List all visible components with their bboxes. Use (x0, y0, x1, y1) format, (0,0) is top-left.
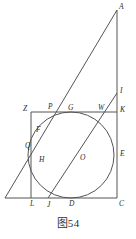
vertex-label-I: I (119, 86, 123, 95)
vertex-label-L: L (29, 199, 34, 208)
vertex-label-K: K (119, 105, 126, 114)
vertex-label-A: A (118, 2, 124, 11)
vertex-label-J: J (47, 200, 51, 209)
vertex-label-Z: Z (23, 104, 28, 113)
vertex-label-O: O (80, 153, 86, 162)
figure-container: A I K E C Z P G W F Q H O L J D 图54 (0, 0, 136, 239)
vertex-label-C: C (119, 199, 125, 208)
vertex-label-Q: Q (25, 141, 31, 150)
vertex-label-F: F (35, 125, 41, 134)
vertex-label-H: H (38, 155, 45, 164)
vertex-label-D: D (68, 199, 75, 208)
figure-caption: 图54 (0, 214, 136, 230)
vertex-label-W: W (98, 103, 105, 112)
vertex-label-P: P (47, 102, 53, 111)
geometry-diagram: A I K E C Z P G W F Q H O L J D (0, 0, 136, 239)
vertex-label-E: E (119, 149, 125, 158)
vertex-labels: A I K E C Z P G W F Q H O L J D (23, 2, 126, 209)
vertex-label-G: G (68, 103, 74, 112)
